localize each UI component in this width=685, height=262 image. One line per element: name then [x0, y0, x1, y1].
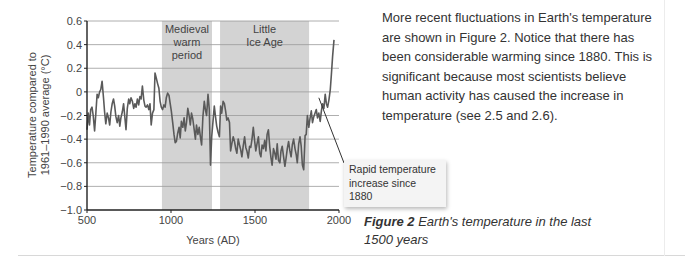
region-label-1-line-3: period: [172, 49, 203, 61]
figure-caption: Figure 2 Earth's temperature in the last…: [364, 213, 594, 249]
page-divider: [18, 255, 685, 256]
y-tick-label: 0.6: [67, 15, 82, 27]
y-tick-label: 0: [76, 86, 82, 98]
y-tick-label: 0.4: [67, 39, 82, 51]
x-tick-label: 2000: [327, 214, 351, 226]
y-tick-label: 0.2: [67, 62, 82, 74]
x-tick-label: 1000: [159, 214, 183, 226]
annotation-callout: Rapid temperature increase since 1880: [344, 160, 446, 207]
x-axis-title: Years (AD): [186, 234, 239, 246]
y-tick-label: −0.8: [60, 180, 82, 192]
y-tick-label: −0.4: [60, 133, 82, 145]
textbook-page: 0.60.40.20−0.2−0.4−0.6−0.8−1.05001000150…: [0, 0, 685, 262]
callout-leader-line: [319, 98, 344, 163]
x-tick-label: 1500: [243, 214, 267, 226]
y-axis-title-line-1: Temperature compared to: [26, 52, 38, 178]
region-label-2-line-2: Ice Age: [246, 36, 283, 48]
y-axis-title: Temperature compared to 1961–1990 averag…: [26, 52, 51, 178]
temperature-chart: 0.60.40.20−0.2−0.4−0.6−0.8−1.05001000150…: [0, 0, 360, 262]
body-paragraph: More recent fluctuations in Earth's temp…: [382, 8, 662, 125]
region-label-2-line-1: Little: [253, 23, 276, 35]
figure-label: Figure 2: [364, 214, 415, 229]
region-label-1-line-1: Medieval: [165, 23, 209, 35]
y-tick-label: −0.2: [60, 110, 82, 122]
page-edge: [664, 0, 665, 256]
region-label-1-line-2: warm: [173, 36, 201, 48]
x-tick-label: 500: [78, 214, 96, 226]
y-tick-label: −0.6: [60, 157, 82, 169]
y-axis-title-line-2: 1961–1990 average (°C): [39, 55, 51, 176]
